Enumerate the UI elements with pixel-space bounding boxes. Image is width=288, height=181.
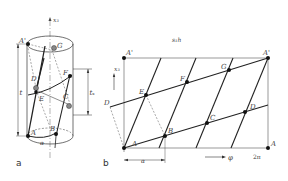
- arrow-right-icon: [222, 156, 226, 159]
- point-g: [52, 46, 57, 51]
- dashed-d-a: [110, 107, 124, 148]
- label-b-b: B: [167, 127, 173, 135]
- label-a-bl: A: [131, 140, 137, 148]
- dashed-e-b: [146, 95, 165, 136]
- label-d-a: D: [30, 75, 37, 83]
- label-a-prime-a: A': [18, 37, 26, 45]
- point-a-right: [266, 146, 270, 150]
- label-g-a: G: [57, 42, 63, 50]
- label-d-left: D: [103, 99, 110, 107]
- point-e: [34, 90, 38, 94]
- label-c-b: C: [210, 114, 216, 122]
- panel-b-development: α φ 2π x₃ s₁h A' A' A A D E F G B C D b: [103, 36, 276, 168]
- point-f-b: [185, 80, 189, 84]
- label-t: t: [20, 89, 23, 97]
- point-a-left: [122, 146, 126, 150]
- helix-line-4: [55, 136, 56, 148]
- point-c-b: [205, 121, 209, 125]
- caption-a: a: [16, 158, 22, 168]
- label-alpha-b: α: [141, 157, 145, 164]
- axis-arrow-icon: [49, 17, 52, 21]
- panel-b-title: s₁h: [172, 36, 181, 43]
- label-a-prime-tr: A': [262, 49, 270, 57]
- label-b-a: B: [49, 125, 55, 133]
- arrow-right-icon: [161, 159, 165, 161]
- point-e-b: [144, 93, 148, 97]
- figure-canvas: t tₛ x₃ A' G D F E C A B α a: [0, 0, 288, 181]
- label-g-b: G: [221, 63, 227, 71]
- label-f-a: F: [62, 69, 69, 77]
- point-c: [67, 104, 72, 109]
- panel-a-cylinder: t tₛ x₃ A' G D F E C A B α a: [16, 16, 95, 168]
- arrow-left-icon: [124, 159, 128, 161]
- caption-b: b: [103, 158, 109, 168]
- label-f-b: F: [179, 75, 186, 83]
- arrow-up-icon: [87, 69, 89, 73]
- point-b-b: [163, 134, 167, 138]
- label-alpha-a: α: [40, 139, 44, 146]
- label-e-a: E: [38, 95, 44, 103]
- label-e-b: E: [138, 88, 144, 96]
- point-d: [34, 86, 39, 91]
- label-a-br: A: [270, 140, 276, 148]
- label-phi: φ: [228, 154, 233, 162]
- label-c-a: C: [63, 93, 69, 101]
- arrow-down-icon: [17, 132, 19, 136]
- label-a-prime-tl: A': [125, 49, 133, 57]
- arrow-down-icon: [87, 111, 89, 115]
- arrow-up-icon: [113, 73, 115, 77]
- label-2pi: 2π: [253, 153, 261, 160]
- label-x3-b: x₃: [114, 65, 120, 72]
- label-x3-a: x₃: [53, 16, 59, 23]
- point-g-b: [227, 68, 231, 72]
- label-d-right: D: [249, 103, 256, 111]
- steep-line-3: [196, 58, 233, 148]
- shallow-line-top: [110, 58, 268, 107]
- label-a-a: A: [30, 129, 36, 137]
- label-ts: tₛ: [90, 89, 96, 97]
- steep-line-1: [124, 58, 161, 148]
- point-d-b: [243, 110, 247, 114]
- helix-line-2: [36, 58, 44, 90]
- point-f: [68, 74, 72, 78]
